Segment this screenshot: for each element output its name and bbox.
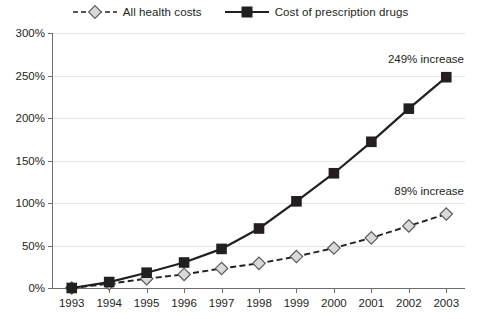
square-marker <box>441 72 452 83</box>
legend-item-all-health-costs: All health costs <box>72 5 202 19</box>
square-marker <box>329 168 340 179</box>
x-axis-tick <box>334 288 335 293</box>
plot-area: 0%50%100%150%200%250%300% 19931994199519… <box>52 33 465 289</box>
x-axis-tick <box>446 288 447 293</box>
x-axis-label: 2001 <box>359 297 385 309</box>
square-marker <box>291 196 302 207</box>
x-axis-tick <box>147 288 148 293</box>
x-axis-tick <box>371 288 372 293</box>
annotation-prescription: 249% increase <box>388 53 464 65</box>
x-axis-label: 1995 <box>134 297 160 309</box>
square-marker <box>216 244 227 255</box>
x-axis-label: 1997 <box>209 297 235 309</box>
legend-label-cost-of-prescription-drugs: Cost of prescription drugs <box>275 6 409 18</box>
x-axis-label: 2003 <box>433 297 459 309</box>
legend-label-all-health-costs: All health costs <box>123 6 202 18</box>
chart-legend: All health costs Cost of prescription dr… <box>0 0 480 24</box>
diamond-marker <box>365 232 377 244</box>
x-axis-label: 2000 <box>321 297 347 309</box>
diamond-marker <box>290 250 302 262</box>
x-axis-label: 1996 <box>171 297 197 309</box>
diamond-marker <box>328 242 340 254</box>
y-axis-label: 150% <box>16 155 45 167</box>
x-axis-label: 1993 <box>59 297 85 309</box>
square-marker <box>366 137 377 148</box>
diamond-marker <box>178 268 190 280</box>
annotation-health: 89% increase <box>394 185 464 197</box>
square-marker <box>179 257 190 268</box>
diamond-marker <box>440 208 452 220</box>
square-marker <box>104 277 115 288</box>
diamond-marker <box>253 257 265 269</box>
y-axis-label: 100% <box>16 197 45 209</box>
x-axis-tick <box>409 288 410 293</box>
x-axis-tick <box>184 288 185 293</box>
diamond-marker-icon <box>72 5 118 19</box>
legend-item-cost-of-prescription-drugs: Cost of prescription drugs <box>224 5 409 19</box>
y-axis-label: 250% <box>16 70 45 82</box>
x-axis-tick <box>259 288 260 293</box>
legend-key-diamond <box>72 5 118 19</box>
y-axis-label: 200% <box>16 112 45 124</box>
square-marker <box>66 283 77 294</box>
y-axis-tick <box>48 288 53 289</box>
x-axis-tick <box>222 288 223 293</box>
y-axis-label: 0% <box>28 282 45 294</box>
square-marker <box>404 103 415 114</box>
data-series-group <box>53 33 465 288</box>
square-marker-icon <box>224 5 270 19</box>
chart-container: All health costs Cost of prescription dr… <box>0 0 480 319</box>
y-axis-label: 50% <box>22 240 45 252</box>
diamond-marker <box>403 220 415 232</box>
x-axis-tick <box>296 288 297 293</box>
square-marker <box>141 267 152 278</box>
x-axis-label: 1999 <box>284 297 310 309</box>
y-axis-label: 300% <box>16 27 45 39</box>
diamond-marker <box>215 262 227 274</box>
x-axis-label: 2002 <box>396 297 422 309</box>
x-axis-label: 1998 <box>246 297 272 309</box>
legend-key-square <box>224 5 270 19</box>
x-axis-label: 1994 <box>96 297 122 309</box>
square-marker <box>254 223 265 234</box>
